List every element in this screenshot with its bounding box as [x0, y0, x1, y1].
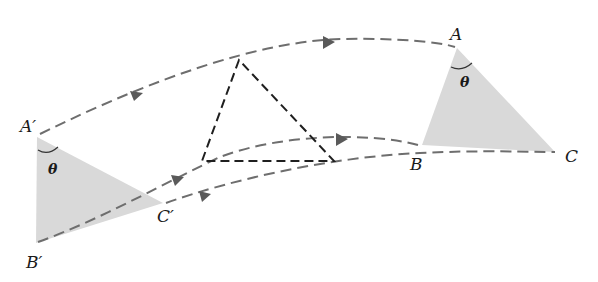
path-c: [166, 151, 555, 203]
label-a-prime: A′: [18, 116, 36, 136]
label-a: A: [448, 24, 462, 44]
final-triangle: [422, 48, 555, 152]
arrow-icon: [171, 175, 184, 186]
label-b: B: [409, 154, 423, 174]
label-theta-right: θ: [460, 74, 470, 90]
arrow-icon: [130, 91, 143, 101]
arrow-icon: [323, 36, 335, 49]
rigid-body-diagram: A′ B′ C′ A B C θ θ: [0, 0, 598, 282]
label-theta-left: θ: [48, 161, 58, 177]
label-c: C: [565, 146, 578, 166]
arrow-icon: [199, 191, 211, 202]
label-c-prime: C′: [157, 206, 174, 226]
path-a: [40, 39, 455, 134]
initial-triangle: [36, 137, 163, 243]
intermediate-triangle: [202, 60, 334, 161]
label-b-prime: B′: [25, 252, 42, 272]
arrow-icon: [336, 133, 348, 146]
diagram-canvas: A′ B′ C′ A B C θ θ: [0, 0, 598, 282]
